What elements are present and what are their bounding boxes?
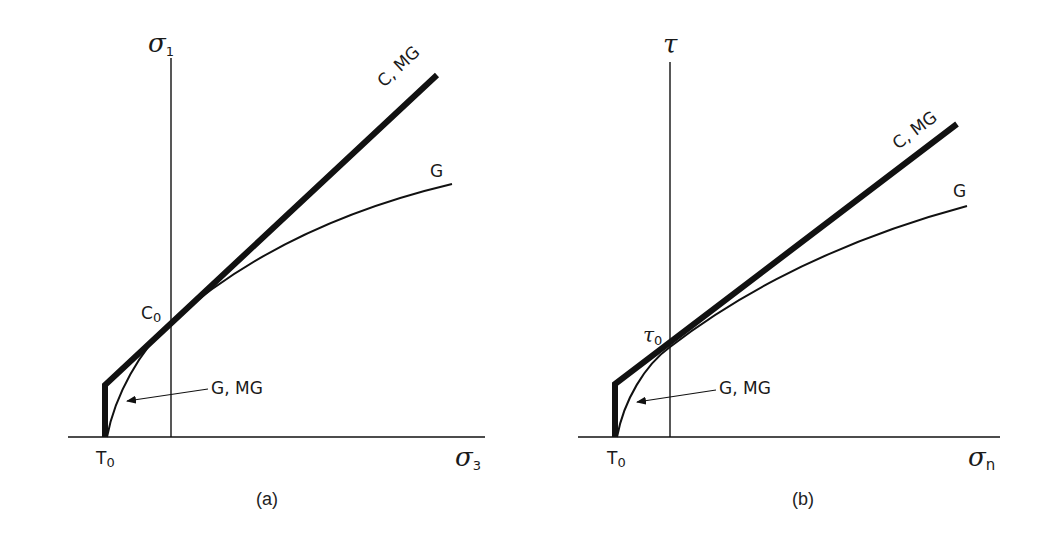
curve-g-label-a: G <box>430 161 443 181</box>
arrow-label-a: G, MG <box>211 378 263 398</box>
intercept-label-b: τ0 <box>643 323 662 348</box>
y-axis-label-a: σ1 <box>148 28 174 59</box>
x-axis-label-a: σ3 <box>455 442 481 473</box>
curve-c-mg-label-b: C, MG <box>888 107 940 153</box>
panel-a: σ1 σ3 C0 T0 C, MG G G, MG (a) <box>68 28 485 509</box>
intercept-label-a: C0 <box>141 303 161 325</box>
caption-b: (b) <box>792 489 814 509</box>
failure-criteria-figure: σ1 σ3 C0 T0 C, MG G G, MG (a) τ <box>0 0 1047 547</box>
y-axis-label-b: τ <box>663 29 678 59</box>
panel-b: τ σn τ0 T0 C, MG G G, MG (b) <box>578 29 1000 509</box>
arrow-g-mg-a <box>127 389 208 401</box>
arrow-g-mg-b <box>637 390 716 402</box>
curve-c-mg-a <box>105 75 437 437</box>
x-axis-label-b: σn <box>968 442 995 474</box>
caption-a: (a) <box>256 489 278 509</box>
curve-c-mg-b <box>615 124 957 437</box>
curve-c-mg-label-a: C, MG <box>373 42 424 91</box>
origin-label-a: T0 <box>95 448 115 470</box>
origin-label-b: T0 <box>606 448 626 470</box>
curve-g-label-b: G <box>953 181 966 201</box>
arrow-label-b: G, MG <box>719 378 771 398</box>
